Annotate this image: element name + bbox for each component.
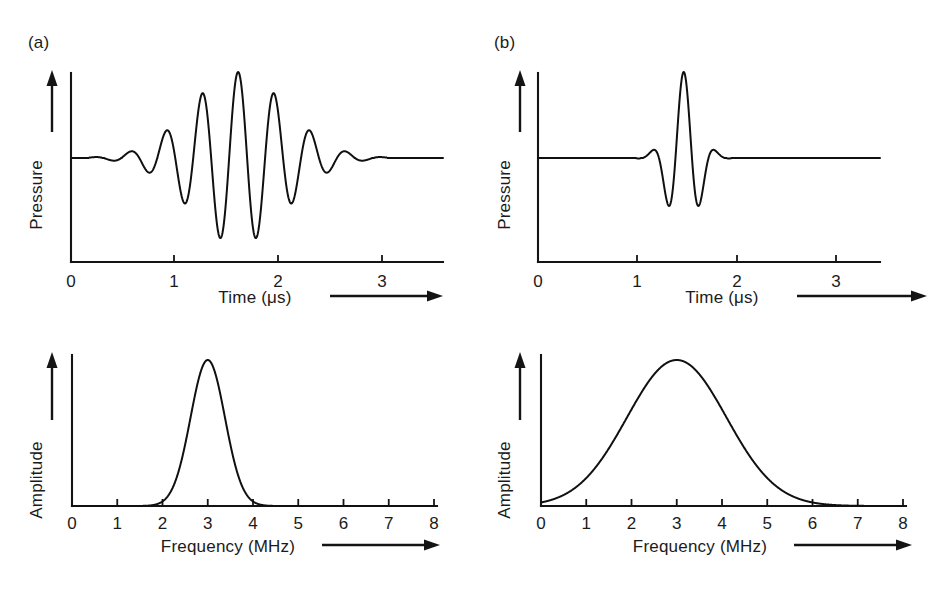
x-axis-title-a: Time (μs): [218, 288, 291, 307]
y-axis-arrow-a: [47, 70, 58, 132]
x-tick-label: 0: [533, 272, 542, 291]
x-tick-label: 1: [113, 514, 122, 533]
x-tick-label: 6: [808, 514, 817, 533]
panel-a-waveform: (a) Pressure 0 1 2 3: [0, 0, 472, 320]
y-axis-title-b: Pressure: [495, 160, 514, 230]
x-tick-label: 5: [294, 514, 303, 533]
x-tick-label: 0: [536, 514, 545, 533]
panel-label-a: (a): [28, 33, 49, 53]
panel-b-waveform: (b) Pressure 0 1 2 3 Time (μs: [472, 0, 944, 320]
x-axis-title-b-spectrum: Frequency (MHz): [633, 537, 767, 556]
waveform-a-svg: Pressure 0 1 2 3 Time (μs): [0, 0, 472, 320]
x-tick-label: 2: [627, 514, 636, 533]
y-axis-arrow-b-spectrum: [515, 352, 526, 420]
x-axis-title-a-spectrum: Frequency (MHz): [161, 537, 295, 556]
x-tick-label: 5: [763, 514, 772, 533]
y-axis-title-a: Pressure: [27, 160, 46, 230]
x-tick-labels-b-spectrum: 012345678: [536, 514, 907, 533]
y-axis-arrow-a-spectrum: [47, 352, 58, 420]
x-axis-title-b: Time (μs): [685, 288, 758, 307]
amplitude-spectrum-trace-a: [72, 360, 434, 506]
panel-label-b: (b): [494, 33, 515, 53]
x-tick-label: 3: [377, 272, 386, 291]
x-tick-label: 1: [632, 272, 641, 291]
x-tick-label: 7: [853, 514, 862, 533]
x-axis-arrow-b: [797, 291, 927, 302]
x-axis-arrow-a-spectrum: [322, 540, 440, 551]
panel-b-spectrum: Amplitude 012345678 Frequency (MHz): [472, 320, 944, 593]
x-tick-label: 8: [429, 514, 438, 533]
y-axis-title-a-spectrum: Amplitude: [27, 441, 46, 518]
x-tick-label: 1: [582, 514, 591, 533]
x-tick-label: 0: [67, 514, 76, 533]
x-tick-label: 3: [672, 514, 681, 533]
x-tick-labels-a-spectrum: 012345678: [67, 514, 438, 533]
y-axis-title-b-spectrum: Amplitude: [495, 441, 514, 518]
x-tick-label: 3: [203, 514, 212, 533]
x-tick-label: 8: [898, 514, 907, 533]
pressure-waveform-trace-a: [71, 72, 443, 238]
spectrum-b-svg: Amplitude 012345678 Frequency (MHz): [472, 320, 944, 593]
figure-root: (a) Pressure 0 1 2 3: [0, 0, 944, 593]
x-axis-arrow-a: [330, 291, 443, 302]
x-tick-label: 6: [339, 514, 348, 533]
x-tick-label: 7: [384, 514, 393, 533]
x-tick-label: 0: [66, 272, 75, 291]
waveform-b-svg: Pressure 0 1 2 3 Time (μs): [472, 0, 944, 320]
x-tick-label: 4: [248, 514, 257, 533]
x-axis-arrow-b-spectrum: [794, 540, 912, 551]
x-tick-label: 4: [717, 514, 726, 533]
y-axis-arrow-b: [515, 70, 526, 132]
x-tick-label: 1: [169, 272, 178, 291]
panel-a-spectrum: Amplitude 012345678 Frequency (MHz): [0, 320, 472, 593]
pressure-waveform-trace-b: [538, 72, 880, 206]
x-tick-label: 2: [158, 514, 167, 533]
spectrum-a-svg: Amplitude 012345678 Frequency (MHz): [0, 320, 472, 593]
amplitude-spectrum-trace-b: [541, 360, 903, 506]
x-tick-label: 3: [831, 272, 840, 291]
